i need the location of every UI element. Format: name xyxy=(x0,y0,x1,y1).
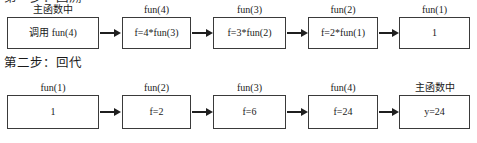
node-box: f=4*fun(3) xyxy=(122,17,191,49)
node-box: f=24 xyxy=(308,95,378,129)
step1-heading: 第一步：回溯 xyxy=(4,0,82,3)
node-box: f=2 xyxy=(122,95,191,129)
node-caption: fun(1) xyxy=(7,82,99,94)
node-box: 1 xyxy=(7,95,99,129)
arrow-right-icon xyxy=(379,29,399,37)
arrow-right-icon xyxy=(287,108,308,116)
node-box: f=3*fun(2) xyxy=(213,17,286,49)
node-box: 1 xyxy=(399,17,470,49)
step2-heading: 第二步：回代 xyxy=(4,56,82,70)
node-box: 调用 fun(4) xyxy=(7,17,99,49)
node-box: f=2*fun(1) xyxy=(308,17,378,49)
arrow-right-icon xyxy=(192,29,213,37)
node-box: f=6 xyxy=(213,95,286,129)
node-caption: fun(4) xyxy=(122,4,191,16)
node-caption: fun(2) xyxy=(308,4,378,16)
arrow-right-icon xyxy=(100,108,121,116)
arrow-right-icon xyxy=(100,29,121,37)
node-caption: fun(1) xyxy=(399,4,470,16)
node-caption: fun(2) xyxy=(122,82,191,94)
node-caption: 主函数中 xyxy=(7,4,99,16)
node-caption: fun(3) xyxy=(213,82,286,94)
arrow-right-icon xyxy=(192,108,213,116)
node-caption: fun(3) xyxy=(213,4,286,16)
node-caption: 主函数中 xyxy=(399,82,470,94)
node-caption: fun(4) xyxy=(308,82,378,94)
node-box: y=24 xyxy=(399,95,470,129)
arrow-right-icon xyxy=(287,29,308,37)
arrow-right-icon xyxy=(379,108,399,116)
